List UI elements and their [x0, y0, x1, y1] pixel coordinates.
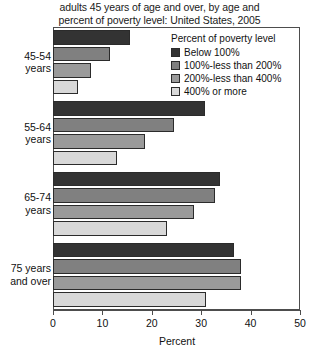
chart-title: adults 45 years of age and over, by age … [0, 1, 319, 26]
legend-item: Below 100% [171, 46, 294, 58]
chart-figure: adults 45 years of age and over, by age … [0, 0, 319, 355]
chart-title-line-1: adults 45 years of age and over, by age … [0, 1, 319, 14]
legend-swatch-icon [171, 61, 180, 70]
x-tick [251, 310, 252, 315]
bar [53, 243, 234, 258]
legend-item: 400% or more [171, 85, 294, 97]
bar [53, 188, 215, 203]
legend-label: 100%-less than 200% [184, 60, 281, 71]
category-label-line: years [0, 62, 51, 75]
bar [53, 118, 174, 133]
category-label: 55-64years [0, 121, 51, 146]
x-tick-label: 30 [181, 317, 221, 329]
x-axis-title: Percent [53, 335, 301, 347]
x-tick [152, 310, 153, 315]
category-label-line: 65-74 [0, 191, 51, 204]
bar [53, 30, 130, 45]
category-label-line: 55-64 [0, 121, 51, 134]
bar [53, 47, 110, 62]
legend-label: 200%-less than 400% [184, 73, 281, 84]
bar [53, 292, 206, 307]
legend-swatch-icon [171, 74, 180, 83]
x-tick [300, 310, 301, 315]
bar [53, 221, 167, 236]
category-label-line: 45-54 [0, 50, 51, 63]
chart-title-line-2: percent of poverty level: United States,… [0, 14, 319, 27]
bar [53, 80, 78, 95]
legend: Percent of poverty level Below 100%100%-… [168, 31, 296, 101]
bar [53, 259, 241, 274]
x-tick-label: 50 [280, 317, 319, 329]
legend-label: Below 100% [184, 47, 240, 58]
legend-swatch-icon [171, 87, 180, 96]
bar [53, 134, 145, 149]
category-label: 75 yearsand over [0, 262, 51, 287]
legend-items: Below 100%100%-less than 200%200%-less t… [171, 46, 294, 97]
x-tick-label: 40 [231, 317, 271, 329]
category-label-line: years [0, 204, 51, 217]
x-tick-label: 0 [33, 317, 73, 329]
category-label-line: years [0, 133, 51, 146]
x-tick-label: 20 [132, 317, 172, 329]
category-label-line: and over [0, 275, 51, 288]
legend-swatch-icon [171, 48, 180, 57]
bar [53, 172, 220, 187]
category-label: 45-54years [0, 50, 51, 75]
x-tick [102, 310, 103, 315]
x-tick [201, 310, 202, 315]
legend-title: Percent of poverty level [171, 33, 294, 45]
x-tick [53, 310, 54, 315]
legend-item: 100%-less than 200% [171, 59, 294, 71]
bar [53, 151, 117, 166]
bar [53, 63, 91, 78]
category-label-line: 75 years [0, 262, 51, 275]
legend-item: 200%-less than 400% [171, 72, 294, 84]
bar [53, 205, 194, 220]
category-label: 65-74years [0, 191, 51, 216]
x-tick-label: 10 [82, 317, 122, 329]
bar [53, 276, 241, 291]
x-axis-line [53, 310, 301, 311]
legend-label: 400% or more [184, 86, 247, 97]
bar [53, 101, 205, 116]
